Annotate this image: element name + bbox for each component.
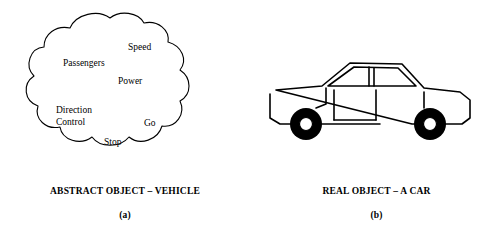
cloud-diagram: Speed Passengers Power Direction Control… [8,6,208,166]
cloud-label-speed: Speed [128,42,151,53]
cloud-label-power: Power [118,76,142,87]
figure-container: Speed Passengers Power Direction Control… [0,0,503,239]
cloud-label-control: Control [56,117,85,128]
car-diagram [264,48,484,148]
cloud-label-go: Go [144,118,156,129]
car-front-hub [424,118,437,131]
panel-real-object: REAL OBJECT – A CAR (b) [250,0,503,239]
cloud-label-passengers: Passengers [63,58,105,69]
car-rear-line [316,88,326,108]
cloud-label-direction: Direction [56,105,92,116]
panel-a-caption: ABSTRACT OBJECT – VEHICLE [0,186,250,196]
cloud-label-stop: Stop [104,137,121,148]
panel-abstract-object: Speed Passengers Power Direction Control… [0,0,250,239]
panel-b-sub-caption: (b) [250,210,503,220]
car-outline-svg [264,48,484,148]
panel-a-sub-caption: (a) [0,210,250,220]
car-rear-hub [300,118,313,131]
cloud-outline-path [26,13,189,145]
panel-b-caption: REAL OBJECT – A CAR [250,186,503,196]
